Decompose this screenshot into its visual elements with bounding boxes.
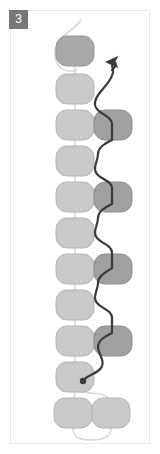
graph-node[interactable] <box>56 290 94 320</box>
figure-panel: 3 Panel 3: vertical chain of rounded nod… <box>0 0 160 454</box>
edge-10-11 <box>73 392 75 398</box>
graph-node[interactable] <box>56 36 94 66</box>
graph-node[interactable] <box>56 326 94 356</box>
path-start-dot <box>80 378 86 384</box>
graph-node[interactable] <box>56 254 94 284</box>
graph-node[interactable] <box>54 398 92 428</box>
panel-index-badge: 3 <box>9 10 28 29</box>
graph-node[interactable] <box>56 110 94 140</box>
graph-node[interactable] <box>56 218 94 248</box>
nodes-layer <box>54 36 132 428</box>
graph-node[interactable] <box>56 146 94 176</box>
bottom-loop-edge <box>73 428 111 440</box>
diagram-canvas <box>0 0 160 454</box>
edge-10-branch-5 <box>80 392 108 398</box>
graph-node[interactable] <box>92 398 130 428</box>
graph-node[interactable] <box>56 74 94 104</box>
graph-node[interactable] <box>56 182 94 212</box>
